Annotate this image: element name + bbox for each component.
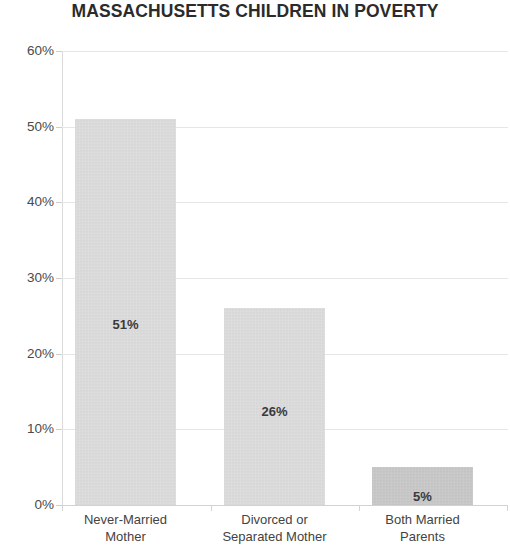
y-axis-tick-label: 0% xyxy=(6,498,54,512)
gridline xyxy=(62,505,508,506)
y-axis-labels: 0%10%20%30%40%50%60% xyxy=(0,0,54,557)
y-axis-tick-label: 40% xyxy=(6,195,54,209)
x-axis-category-label: Divorced orSeparated Mother xyxy=(202,512,347,545)
y-axis-tick xyxy=(56,429,62,430)
y-axis-tick-label: 20% xyxy=(6,347,54,361)
x-axis-category-label: Never-MarriedMother xyxy=(53,512,198,545)
category-label-line-1: Both Married xyxy=(350,512,495,529)
category-label-line-2: Mother xyxy=(53,529,198,546)
bar-value-label: 5% xyxy=(372,489,473,504)
x-axis-category-label: Both MarriedParents xyxy=(350,512,495,545)
bar-value-label: 26% xyxy=(224,404,325,419)
bar: 26% xyxy=(224,308,325,505)
category-label-line-1: Divorced or xyxy=(202,512,347,529)
bar-value-label: 51% xyxy=(75,317,176,332)
chart-title: MASSACHUSETTS CHILDREN IN POVERTY xyxy=(0,1,510,22)
plot-area: 51%26%5% xyxy=(62,51,508,505)
bar: 51% xyxy=(75,119,176,505)
category-label-line-2: Parents xyxy=(350,529,495,546)
bar-chart: MASSACHUSETTS CHILDREN IN POVERTY 0%10%2… xyxy=(0,0,510,557)
y-axis-tick-label: 60% xyxy=(6,44,54,58)
x-axis-tick xyxy=(62,505,63,511)
x-axis-tick xyxy=(507,505,508,511)
category-label-line-1: Never-Married xyxy=(53,512,198,529)
x-axis-tick xyxy=(359,505,360,511)
y-axis-tick xyxy=(56,278,62,279)
y-axis-tick xyxy=(56,202,62,203)
category-label-line-2: Separated Mother xyxy=(202,529,347,546)
y-axis-tick-label: 50% xyxy=(6,120,54,134)
x-axis-tick xyxy=(211,505,212,511)
y-axis-tick xyxy=(56,354,62,355)
gridline xyxy=(62,51,508,52)
y-axis-tick xyxy=(56,51,62,52)
y-axis-tick-label: 10% xyxy=(6,422,54,436)
y-axis-tick xyxy=(56,127,62,128)
y-axis-tick-label: 30% xyxy=(6,271,54,285)
bar: 5% xyxy=(372,467,473,505)
